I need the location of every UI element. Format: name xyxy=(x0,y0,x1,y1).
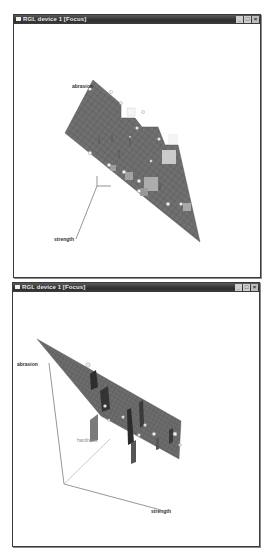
hardness-axis-line xyxy=(64,439,110,484)
window-title: RGL device 1 [Focus] xyxy=(22,283,85,292)
axis-label-hardness: hardness xyxy=(77,437,98,443)
window-controls: _ □ × xyxy=(235,284,258,291)
strength-axis-line xyxy=(76,176,111,239)
axis-label-strength: strength xyxy=(54,236,74,242)
minimize-button[interactable]: _ xyxy=(235,284,242,291)
strength-axis-line xyxy=(64,484,161,510)
3d-plot-canvas[interactable]: abrasion strength xyxy=(14,24,260,277)
close-button[interactable]: × xyxy=(252,16,259,23)
maximize-button[interactable]: □ xyxy=(244,16,251,23)
abrasion-axis-line xyxy=(49,363,64,484)
3d-plot-canvas[interactable]: abrasion hardness strength xyxy=(13,292,259,546)
window-controls: _ □ × xyxy=(236,16,259,23)
axis-label-abrasion: abrasion xyxy=(72,83,93,89)
window-icon xyxy=(16,17,21,21)
maximize-button[interactable]: □ xyxy=(243,284,250,291)
rgl-device-window-1[interactable]: RGL device 1 [Focus] _ □ × xyxy=(13,14,261,278)
axis-label-strength: strength xyxy=(151,508,171,514)
minimize-button[interactable]: _ xyxy=(236,16,243,23)
axis-label-abrasion: abrasion xyxy=(17,361,38,367)
window-icon xyxy=(15,285,20,289)
title-bar[interactable]: RGL device 1 [Focus] _ □ × xyxy=(13,283,259,292)
3d-scene xyxy=(14,24,260,277)
3d-scene xyxy=(13,292,259,546)
close-button[interactable]: × xyxy=(251,284,258,291)
window-title: RGL device 1 [Focus] xyxy=(23,15,86,24)
rgl-device-window-2[interactable]: RGL device 1 [Focus] _ □ × xyxy=(12,282,260,547)
regression-plane xyxy=(65,80,200,242)
title-bar[interactable]: RGL device 1 [Focus] _ □ × xyxy=(14,15,260,24)
